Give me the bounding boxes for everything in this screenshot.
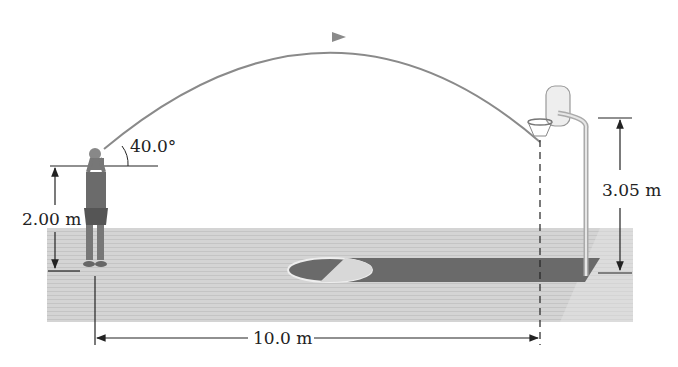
launch-angle-label: 40.0° — [130, 136, 176, 156]
horizontal-distance-label: 10.0 m — [253, 328, 312, 348]
direction-arrow-icon — [332, 32, 346, 42]
trajectory-arc — [104, 32, 540, 149]
diagram-canvas: 40.0° 2.00 m 3.05 m 10.0 m — [0, 0, 678, 367]
free-throw-key — [288, 258, 600, 282]
release-height-label: 2.00 m — [22, 209, 81, 229]
hoop-height-label: 3.05 m — [602, 180, 661, 200]
